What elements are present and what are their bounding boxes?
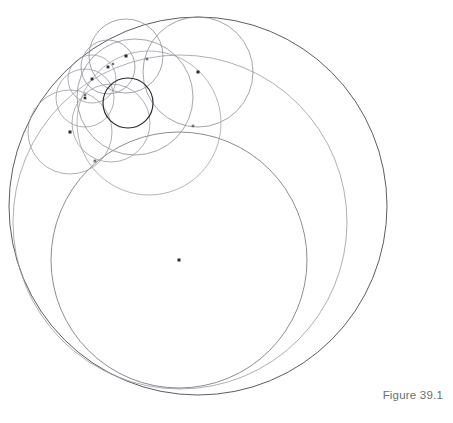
centre-dot-chain-5	[125, 55, 128, 58]
centre-dot-chain-1	[178, 259, 181, 262]
figure-caption: Figure 39.1	[383, 389, 443, 401]
tangency-node-b	[192, 125, 195, 128]
tangency-node-e	[112, 63, 114, 65]
figure-container: Figure 39.1	[0, 0, 453, 423]
centre-dot-chain-2	[197, 71, 200, 74]
tangency-node-d	[84, 94, 86, 96]
centre-dot-chain-9	[69, 131, 72, 134]
tangency-node-c	[94, 160, 97, 163]
centre-dot-chain-8	[84, 97, 87, 100]
centre-dot-chain-6	[107, 66, 110, 69]
centre-dot-chain-7	[91, 78, 94, 81]
outer-boundary-circle	[9, 17, 387, 395]
figure-drawing	[0, 0, 453, 423]
tangency-node-a	[146, 58, 149, 61]
circles-layer	[9, 17, 387, 395]
